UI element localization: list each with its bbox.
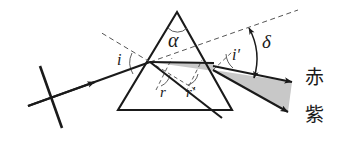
incident-ray-arrow: [28, 82, 95, 106]
wavefront-tick-mark: [40, 66, 62, 128]
label-red-ray: 赤: [305, 68, 324, 87]
deviation-angle-arrow: [249, 28, 257, 78]
label-deviation-angle: δ: [262, 32, 271, 51]
label-angle-of-incidence: i: [117, 52, 121, 68]
diagram-canvas: [0, 0, 355, 146]
label-apex-angle: α: [168, 30, 179, 50]
label-refraction-angle-first: r: [160, 85, 166, 100]
label-refraction-angle-second: r′: [186, 85, 195, 100]
prism-dispersion-diagram: α i i′ r r′ δ 赤 紫: [0, 0, 355, 146]
prism-triangle-outline: [118, 12, 232, 110]
internal-ray-upper: [150, 62, 214, 63]
angle-arc-i: [130, 53, 133, 74]
dashed-incident-normal-line: [100, 32, 150, 62]
label-violet-ray: 紫: [305, 105, 324, 124]
label-angle-of-emergence: i′: [232, 47, 240, 63]
